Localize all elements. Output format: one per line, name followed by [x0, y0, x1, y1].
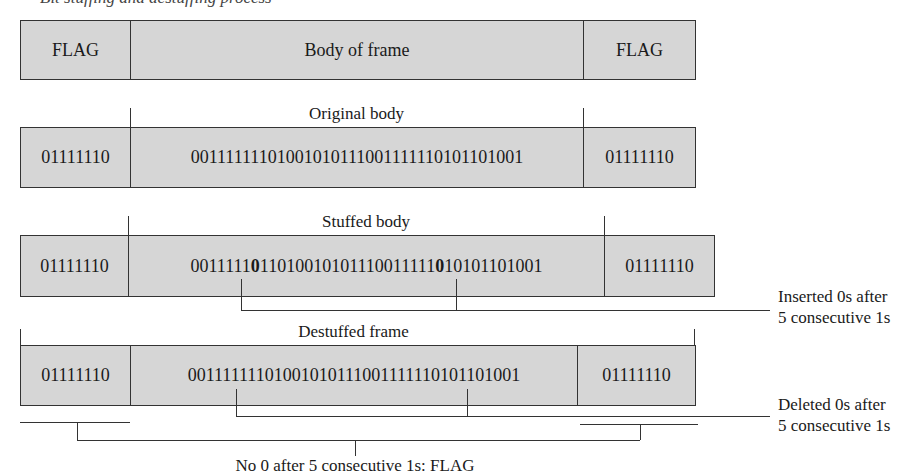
inserted-bracket-right [456, 279, 457, 310]
original-left-flag: 01111110 [21, 128, 131, 187]
stuffed-left-flag: 01111110 [21, 236, 129, 296]
destuffed-frame: 01111110 0011111110100101011100111111010… [20, 345, 696, 406]
deleted-bracket-right [467, 389, 468, 416]
figure-caption: Bit stuffing and destuffing process [40, 0, 272, 8]
inserted-annotation: Inserted 0s after 5 consecutive 1s [778, 286, 890, 328]
destuffed-tick-right [694, 329, 695, 346]
inserted-zero-1: 0 [251, 256, 260, 277]
destuffed-body-bits: 00111111101001010111001111110101101001 [131, 346, 578, 405]
inserted-bracket-line [241, 310, 770, 311]
stuffed-bits-c: 10101101001 [444, 256, 542, 277]
original-right-flag: 01111110 [584, 128, 695, 187]
stuffed-frame: 01111110 0011111011010010101110011111010… [20, 235, 715, 297]
flag-bracket-line [77, 440, 640, 441]
generic-body: Body of frame [131, 21, 584, 79]
inserted-zero-2: 0 [435, 256, 444, 277]
original-body-label: Original body [130, 104, 583, 124]
destuffed-right-flag: 01111110 [578, 346, 695, 405]
deleted-annotation: Deleted 0s after 5 consecutive 1s [778, 394, 890, 436]
stuffed-bits-a: 0011111 [191, 256, 251, 277]
deleted-bracket-line [236, 416, 770, 417]
destuffed-frame-label: Destuffed frame [130, 322, 577, 342]
original-frame: 01111110 0011111110100101011100111111010… [20, 127, 696, 188]
stuffed-body-bits: 0011111011010010101110011111010101101001 [129, 236, 605, 296]
stuffed-body-label: Stuffed body [128, 212, 604, 232]
right-flag-underline [580, 424, 698, 425]
generic-right-flag: FLAG [584, 21, 695, 79]
stuffed-tick-right [604, 216, 605, 236]
stuffed-right-flag: 01111110 [605, 236, 714, 296]
destuffed-left-flag: 01111110 [21, 346, 131, 405]
generic-left-flag: FLAG [21, 21, 131, 79]
flag-bracket-stem [355, 440, 356, 456]
deleted-bracket-left [236, 389, 237, 416]
flag-annotation: No 0 after 5 consecutive 1s: FLAG [155, 456, 555, 476]
original-tick-right [583, 108, 584, 128]
left-flag-underline [20, 422, 130, 423]
stuffed-bits-b: 11010010101110011111 [260, 256, 435, 277]
generic-frame: FLAG Body of frame FLAG [20, 20, 696, 80]
inserted-bracket-left [241, 279, 242, 310]
destuffed-tick-left [20, 329, 21, 346]
original-body-bits: 00111111101001010111001111110101101001 [131, 128, 584, 187]
flag-bracket-right [640, 424, 641, 440]
flag-bracket-left [77, 422, 78, 440]
